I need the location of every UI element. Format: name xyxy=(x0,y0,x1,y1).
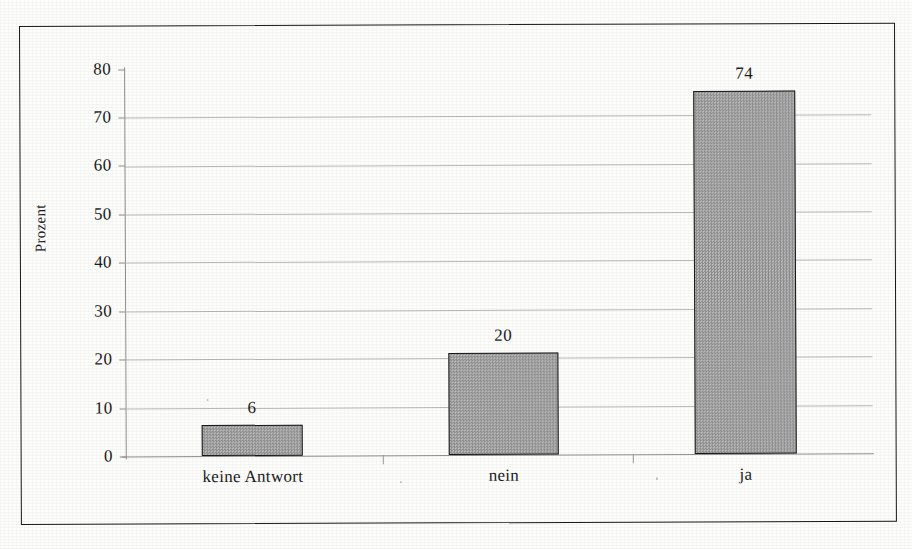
bar-ja[interactable] xyxy=(693,91,797,454)
y-tick-label: 30 xyxy=(72,303,112,320)
y-tick-label: 40 xyxy=(72,254,112,271)
bar-value-label: 6 xyxy=(217,399,287,416)
chart-plot-stage: Prozent 80 70 60 50 40 30 20 10 0 6 xyxy=(0,0,912,549)
bar-value-label: 74 xyxy=(709,65,779,82)
y-tick-label: 70 xyxy=(71,109,111,126)
scan-speck xyxy=(656,477,658,480)
scan-speck xyxy=(507,428,509,430)
x-label-ja: ja xyxy=(626,464,866,484)
y-tick-label: 10 xyxy=(73,399,113,416)
x-label-nein: nein xyxy=(384,465,624,485)
y-axis-tick-labels: 80 70 60 50 40 30 20 10 0 xyxy=(67,70,113,457)
bar-keine-antwort[interactable] xyxy=(202,425,303,456)
plot-area: 6 20 74 xyxy=(124,66,873,456)
bar-value-label: 20 xyxy=(468,327,538,344)
x-label-keine-antwort: keine Antwort xyxy=(133,466,373,486)
scan-speck xyxy=(207,399,209,401)
y-tick-label: 20 xyxy=(72,351,112,368)
y-tick-label: 80 xyxy=(71,61,111,78)
x-axis-category-labels: keine Antwort nein ja xyxy=(126,464,873,497)
y-axis-title: Prozent xyxy=(32,173,49,283)
y-tick-label: 60 xyxy=(71,157,111,174)
y-tick-label: 50 xyxy=(72,206,112,223)
scan-speck xyxy=(400,481,402,483)
category-separator-tick xyxy=(383,455,384,464)
category-separator-tick xyxy=(633,454,634,463)
y-tick-label: 0 xyxy=(73,447,113,464)
bar-nein[interactable] xyxy=(448,353,558,455)
